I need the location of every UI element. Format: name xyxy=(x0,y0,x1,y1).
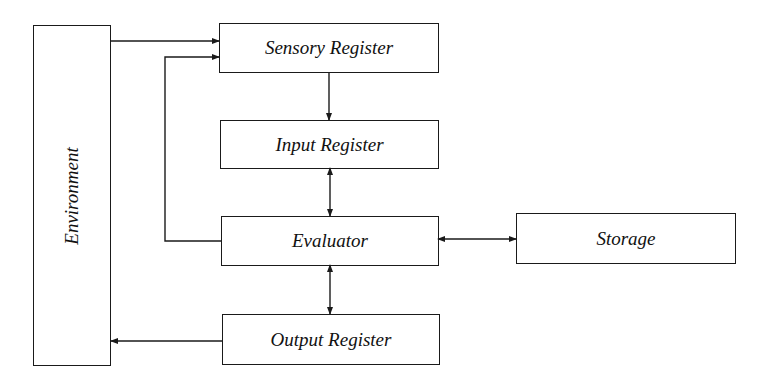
input-register-box: Input Register xyxy=(220,120,439,169)
output-register-label: Output Register xyxy=(271,329,392,351)
environment-label: Environment xyxy=(61,147,83,244)
storage-box: Storage xyxy=(516,213,736,264)
input-register-label: Input Register xyxy=(275,134,383,156)
storage-label: Storage xyxy=(596,228,655,250)
evaluator-label: Evaluator xyxy=(292,230,368,252)
evaluator-box: Evaluator xyxy=(221,216,439,266)
sensory-register-label: Sensory Register xyxy=(265,37,393,59)
arrow-evaluator-feedback-to-sensory xyxy=(165,57,221,241)
sensory-register-box: Sensory Register xyxy=(219,23,439,73)
environment-box: Environment xyxy=(33,25,111,366)
output-register-box: Output Register xyxy=(222,314,440,365)
